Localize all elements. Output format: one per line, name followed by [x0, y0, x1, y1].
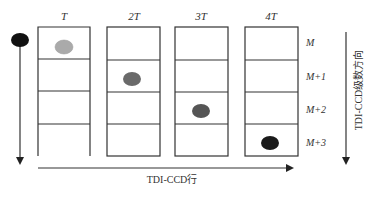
row-label-m2: M+2: [305, 104, 326, 115]
column-label-3t: 3T: [194, 10, 208, 22]
vertical-axis-label: TDI-CCD级数方向: [352, 50, 364, 131]
column-label-2t: 2T: [128, 10, 141, 22]
target-dot-4t: [261, 136, 279, 150]
ccd-column-3: [175, 27, 228, 156]
target-dot-3t: [192, 104, 210, 118]
row-label-m1: M+1: [305, 71, 326, 82]
target-dot-t: [55, 40, 73, 54]
column-label-t: T: [61, 10, 68, 22]
ccd-column-2: [107, 27, 160, 156]
moving-target: [11, 33, 29, 163]
horizontal-axis-label: TDI-CCD行: [147, 173, 198, 185]
column-label-4t: 4T: [265, 10, 278, 22]
tdi-ccd-diagram: T 2T 3T 4T M M+1 M+2 M+3 TDI-CCD行: [0, 0, 370, 200]
row-label-m3: M+3: [305, 137, 326, 148]
row-label-m: M: [305, 37, 315, 48]
target-dot-2t: [123, 72, 141, 86]
